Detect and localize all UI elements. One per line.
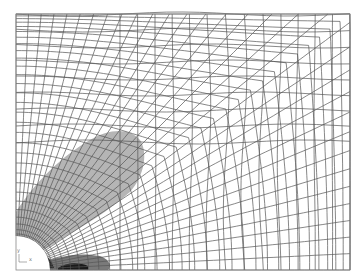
triad-x-label: x <box>29 256 32 262</box>
mesh-figure: x y <box>0 0 364 276</box>
triad-y-label: y <box>17 247 20 254</box>
